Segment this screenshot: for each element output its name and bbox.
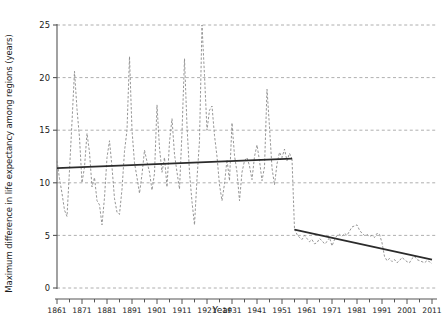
chart-container: 0510152025186118711881189119011911192119… xyxy=(0,0,444,327)
y-tick-label: 25 xyxy=(39,20,50,30)
y-tick-label: 5 xyxy=(45,231,50,241)
chart-plot: 0510152025186118711881189119011911192119… xyxy=(0,0,444,327)
x-axis-title: Year xyxy=(0,305,444,315)
data-series-break-connector xyxy=(292,159,295,229)
data-series-line xyxy=(57,25,292,225)
y-tick-label: 0 xyxy=(45,283,50,293)
y-tick-label: 10 xyxy=(39,178,50,188)
y-tick-label: 15 xyxy=(39,125,50,135)
y-tick-label: 20 xyxy=(39,73,50,83)
trend-line-pre-break-trend xyxy=(57,159,292,168)
trend-line-post-break-trend xyxy=(295,230,433,260)
